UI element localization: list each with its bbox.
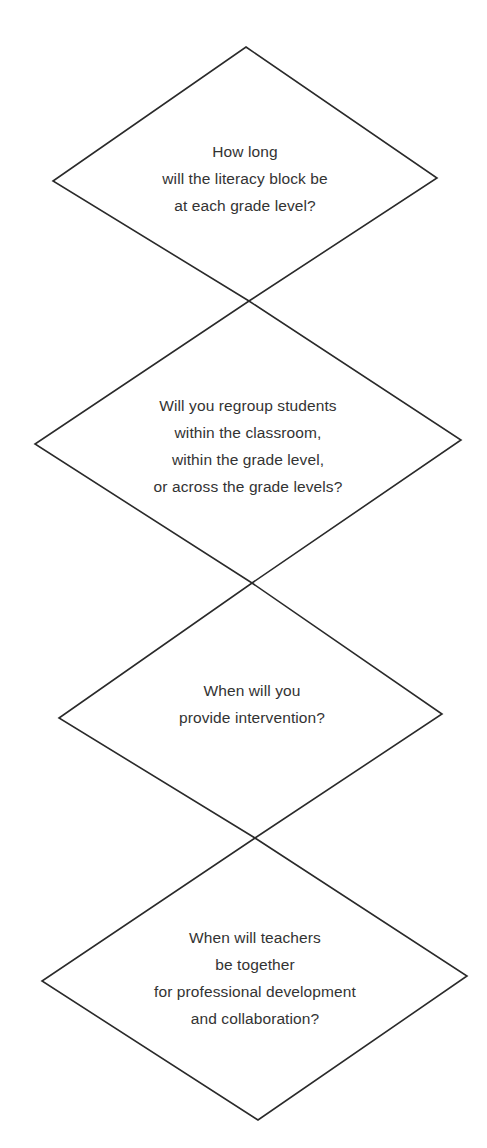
label-line: be together: [154, 951, 356, 978]
label-line: for professional development: [154, 978, 356, 1005]
decision-label-literacy-block: How long will the literacy block be at e…: [162, 138, 327, 219]
decision-label-teacher-collaboration: When will teachers be together for profe…: [154, 924, 356, 1032]
label-line: and collaboration?: [154, 1005, 356, 1032]
label-line: Will you regroup students: [154, 392, 343, 419]
label-line: within the grade level,: [154, 446, 343, 473]
decision-label-intervention: When will you provide intervention?: [179, 677, 325, 731]
label-line: When will you: [179, 677, 325, 704]
label-line: provide intervention?: [179, 704, 325, 731]
label-line: How long: [162, 138, 327, 165]
label-line: will the literacy block be: [162, 165, 327, 192]
label-line: within the classroom,: [154, 419, 343, 446]
label-line: When will teachers: [154, 924, 356, 951]
label-line: or across the grade levels?: [154, 473, 343, 500]
label-line: at each grade level?: [162, 192, 327, 219]
decision-label-regroup-students: Will you regroup students within the cla…: [154, 392, 343, 500]
